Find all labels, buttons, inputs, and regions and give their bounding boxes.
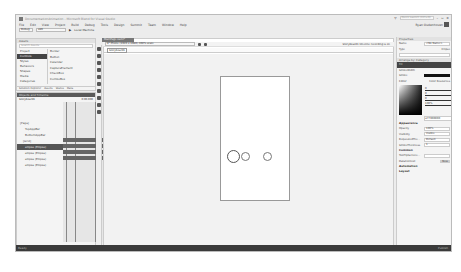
window-title: DocumentationAnimation - Microsoft Blend… [25,17,115,21]
storyboard-name[interactable]: Storyboard1 [19,98,35,101]
stroke-swatch[interactable] [424,74,450,77]
publish-button[interactable]: Publish [438,245,448,251]
menu-design[interactable]: Design [114,23,124,27]
visibility-label: Visibility [399,133,410,136]
stroke-width-label: StrokeWidth [399,69,415,72]
name-label: Name [399,42,407,45]
menu-window[interactable]: Window [162,23,174,27]
landscape-icon[interactable] [198,43,201,46]
requested-theme-select[interactable]: Default [424,138,450,142]
selection-tool-icon[interactable] [97,47,101,51]
tab-color-resources[interactable]: Color Resources [429,80,450,83]
tools-strip [96,45,102,252]
recording-status[interactable]: Storyboard1 timeline recording is on [343,43,390,46]
design-canvas[interactable] [104,54,393,247]
portrait-icon[interactable] [204,43,207,46]
timeline-time[interactable]: 0:00.000 [81,98,93,101]
tree-ellipse[interactable]: ellipse (Ellipse) [17,162,63,168]
asset-combobox[interactable]: ComboBox [48,77,95,83]
b-field[interactable]: 0 [425,97,451,101]
tooltip-label: ToolTipService... [399,154,420,157]
assets-search-input[interactable]: Search Assets [19,44,93,48]
menu-build[interactable]: Build [71,23,79,27]
datacontext-label: DataContext [399,160,415,163]
category-categories[interactable]: Categories [17,79,47,84]
tab-states[interactable]: States [56,87,64,90]
a-field[interactable]: 100% [425,102,451,106]
assets-panel: Assets Search Assets Project Controls St… [16,38,96,91]
assets-header: Assets [17,39,95,43]
menu-view[interactable]: View [42,23,49,27]
menu-tools[interactable]: Tools [101,23,108,27]
ellipse-shape[interactable] [263,152,272,161]
menu-summit[interactable]: Summit [130,23,142,27]
direct-selection-tool-icon[interactable] [97,54,101,58]
g-field[interactable]: 0 [425,92,451,96]
filter-icon[interactable]: ▽ [394,16,396,20]
tooltip-input[interactable] [424,154,450,158]
assets-icon[interactable] [97,110,101,114]
ellipse-shape[interactable] [241,152,250,161]
properties-header: Properties [397,37,452,41]
datacontext-new-button[interactable]: New [440,160,450,163]
toolbar: Debug x86 ▶ Local Machine [16,27,451,33]
properties-search[interactable] [399,53,450,57]
asset-categories: Project Controls Styles Behaviors Shapes… [17,49,47,84]
blend-window: DocumentationAnimation - Microsoft Blend… [15,14,452,252]
layout-section[interactable]: Layout [397,169,452,174]
visibility-select[interactable]: Visible [424,132,450,136]
brush-transform-icon[interactable] [97,82,101,86]
tab-editor[interactable]: Editor [399,80,407,83]
device-bar: 8" Phone (1920 x 1080) 360% scale Storyb… [103,42,394,47]
properties-panel: Properties Name <No Name> Type Ellipse A… [396,37,452,252]
menu-edit[interactable]: Edit [30,23,36,27]
maximize-button[interactable]: ▫ [441,16,443,20]
stroke-label: Stroke [399,74,407,77]
horizontal-ruler: Storyboard1 [104,48,393,53]
menu-team[interactable]: Team [148,23,156,27]
layout-panel-icon[interactable] [97,96,101,100]
tab-solution-explorer[interactable]: Solution Explorer [19,87,41,90]
menu-debug[interactable]: Debug [85,23,95,27]
pen-tool-icon[interactable] [97,61,101,65]
artboard-page[interactable] [220,76,290,201]
state-label: Storyboard1 [107,48,127,53]
objects-header: Objects and Timeline [17,93,95,97]
paint-bucket-icon[interactable] [97,75,101,79]
arrange-by[interactable]: Arrange by: Category [397,58,452,62]
name-input[interactable]: <No Name> [424,42,450,46]
app-logo-icon [19,17,23,21]
tab-assets[interactable]: Assets [44,87,52,90]
tab-data[interactable]: Data [67,87,73,90]
stroke-thickness-input[interactable]: 1 [424,143,450,147]
r-field[interactable]: 0 [425,87,451,91]
objects-timeline-panel: Objects and Timeline Storyboard1 0:00.00… [16,92,96,251]
run-target[interactable]: Local Machine [74,28,94,32]
asset-list: Border Button Calendar CaptureElement Ch… [47,49,95,84]
quick-launch-input[interactable]: Quick Launch (Ctrl+Q) [400,16,434,20]
type-row: Type Ellipse [397,47,452,53]
left-panel-tabs: Solution Explorer Assets States Data [17,86,95,90]
text-tool-icon[interactable] [97,103,101,107]
stroke-thickness-label: StrokeThickness [399,144,420,147]
rectangle-tool-icon[interactable] [97,89,101,93]
color-picker[interactable] [399,85,422,115]
status-text: Ready [18,246,27,250]
menu-file[interactable]: File [19,23,24,27]
opacity-input[interactable]: 100% [424,127,450,131]
fill-label: Fill [399,63,402,66]
close-button[interactable]: × [446,16,449,20]
menu-help[interactable]: Help [180,23,187,27]
device-select[interactable]: 8" Phone (1920 x 1080) 360% scale [105,42,195,46]
run-icon[interactable]: ▶ [69,28,71,32]
platform-select[interactable]: x86 [36,28,66,32]
status-bar: Ready Publish [16,245,451,251]
minimize-button[interactable]: – [437,16,439,20]
rgba-fields: 0 0 0 100% #FF000000 [424,84,452,121]
ellipse-shape[interactable] [227,150,240,163]
opacity-label: Opacity [399,127,409,130]
config-select[interactable]: Debug [19,28,33,32]
hex-field[interactable]: #FF000000 [424,116,452,121]
pencil-tool-icon[interactable] [97,68,101,72]
menu-project[interactable]: Project [55,23,65,27]
